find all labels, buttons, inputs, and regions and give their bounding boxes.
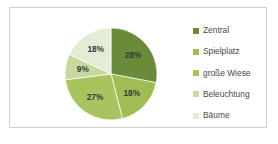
pie-svg: 28%18%27%9%18% bbox=[56, 20, 168, 128]
pie-chart-figure: 28%18%27%9%18% ZentralSpielplatzgroße Wi… bbox=[0, 0, 278, 144]
pie-plot-area: 28%18%27%9%18% bbox=[56, 20, 168, 128]
legend-swatch-icon bbox=[193, 91, 199, 97]
pie-slice-group bbox=[65, 28, 157, 120]
legend-item-label: große Wiese bbox=[203, 68, 250, 79]
legend-item[interactable]: große Wiese bbox=[193, 68, 273, 79]
chart-legend: ZentralSpielplatzgroße WieseBeleuchtungB… bbox=[193, 25, 273, 121]
legend-swatch-icon bbox=[193, 28, 199, 34]
legend-item-label: Bäume bbox=[203, 110, 230, 121]
pie-slice-value-label: 28% bbox=[125, 50, 142, 60]
legend-item[interactable]: Beleuchtung bbox=[193, 89, 273, 100]
legend-item-label: Beleuchtung bbox=[203, 89, 250, 100]
pie-slice-value-label: 18% bbox=[87, 44, 104, 54]
pie-slice-value-label: 9% bbox=[77, 64, 90, 74]
pie-slice-value-label: 27% bbox=[87, 92, 104, 102]
legend-item[interactable]: Zentral bbox=[193, 25, 273, 36]
legend-swatch-icon bbox=[193, 113, 199, 119]
legend-item-label: Zentral bbox=[203, 25, 229, 36]
legend-swatch-icon bbox=[193, 49, 199, 55]
legend-swatch-icon bbox=[193, 70, 199, 76]
legend-item[interactable]: Bäume bbox=[193, 110, 273, 121]
pie-slice-value-label: 18% bbox=[123, 88, 140, 98]
legend-item[interactable]: Spielplatz bbox=[193, 46, 273, 57]
legend-item-label: Spielplatz bbox=[203, 46, 239, 57]
